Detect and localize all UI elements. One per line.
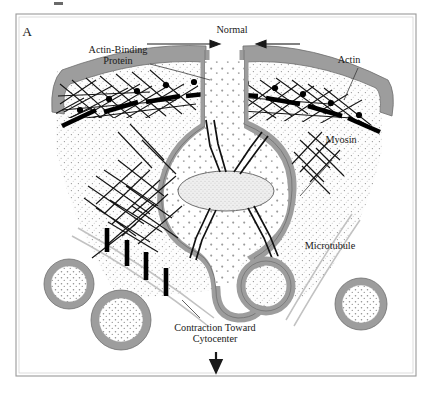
vesicle — [335, 278, 387, 330]
label-myosin: Myosin — [325, 134, 356, 145]
panel-letter: A — [22, 24, 32, 39]
label-actin: Actin — [338, 54, 361, 65]
label-contraction-toward-cytocenter: Contraction Toward Cytocenter — [174, 322, 255, 345]
registration-tick — [54, 2, 63, 5]
label-normal: Normal — [216, 24, 247, 35]
membrane-bud — [241, 261, 291, 311]
nucleus — [178, 171, 274, 211]
vesicle — [91, 290, 151, 350]
label-microtubule: Microtubule — [305, 240, 355, 251]
label-actin-binding-protein: Actin-Binding Protein — [89, 44, 148, 67]
figure-panel: A Actin-Binding Protein Normal Actin Myo… — [0, 0, 432, 394]
vesicle — [44, 259, 94, 309]
